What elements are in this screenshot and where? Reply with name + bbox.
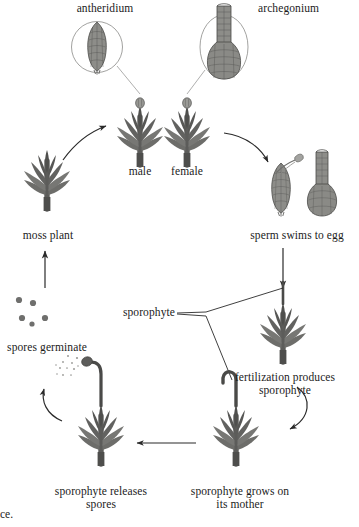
sporophyte-leader-lower: [177, 314, 232, 380]
spore-dot: [29, 321, 34, 326]
dispersing-spores: [55, 355, 79, 376]
arrow-female-to-fertilization: [224, 133, 268, 162]
label-releases-line1: sporophyte releases: [55, 485, 147, 498]
fertilization-sporophyte-plant: [260, 282, 306, 364]
sperm-swims-to-egg-group: [272, 150, 337, 217]
archegonium-callout: [187, 4, 248, 94]
life-cycle-diagram-canvas: [0, 0, 359, 527]
antheridium-leader-line: [117, 66, 140, 94]
label-spores-germinate: spores germinate: [7, 341, 87, 354]
spore-dot: [16, 297, 22, 303]
sporophyte-releases-plant: [55, 355, 124, 466]
sporophyte-leader-upper: [177, 288, 283, 313]
male-gametophyte: [117, 98, 163, 167]
spore-dot: [30, 300, 36, 306]
label-grows-line2: its mother: [216, 498, 263, 511]
label-female: female: [171, 165, 203, 178]
label-sperm-swims-to-egg: sperm swims to egg: [250, 229, 343, 242]
cut-caption-fragment: ce.: [0, 508, 13, 520]
spores-group: [16, 297, 48, 327]
label-grows-line1: sporophyte grows on: [191, 485, 289, 498]
label-male: male: [129, 165, 152, 178]
archegonium-leader-line: [187, 70, 205, 94]
label-archegonium: archegonium: [258, 2, 319, 15]
label-releases-line2: spores: [86, 498, 116, 511]
archegonium-detached: [307, 150, 336, 216]
antheridium-callout: [72, 22, 141, 95]
arrow-releases-to-spores: [43, 389, 62, 421]
spore-dot: [42, 315, 48, 321]
sporophyte-seta-bent: [91, 362, 101, 406]
label-fertilization-line2: sporophyte: [259, 384, 311, 397]
spore-dot: [19, 315, 25, 321]
label-antheridium: antheridium: [77, 2, 134, 15]
spore-capsule: [80, 355, 93, 367]
female-gametophyte: [164, 98, 210, 167]
arrow-moss-to-male: [63, 126, 106, 160]
label-sporophyte: sporophyte: [123, 306, 175, 319]
moss-life-cycle-figure: antheridium archegonium male female moss…: [0, 0, 359, 527]
label-moss-plant: moss plant: [23, 229, 74, 242]
label-fertilization-line1: fertilization produces: [235, 371, 335, 384]
antheridium-detached: [272, 163, 291, 217]
sporophyte-grows-plant: [213, 372, 259, 466]
